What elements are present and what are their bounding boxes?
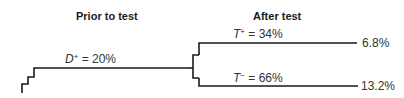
header-prior-to-test: Prior to test xyxy=(76,11,138,22)
header-after-test: After test xyxy=(253,11,301,22)
outcome-positive: 6.8% xyxy=(362,37,389,49)
prior-staircase xyxy=(22,68,187,93)
prior-probability-label: D+ = 20% xyxy=(65,53,116,65)
split-vertical xyxy=(193,55,199,78)
prior-variable: D xyxy=(65,52,74,66)
branch-positive-line xyxy=(199,43,357,55)
test-positive-value: = 34% xyxy=(245,27,283,41)
test-negative-label: T− = 66% xyxy=(233,72,283,84)
test-negative-value: = 66% xyxy=(245,71,283,85)
outcome-negative: 13.2% xyxy=(361,80,395,92)
test-positive-label: T+ = 34% xyxy=(233,28,283,40)
tree-lines xyxy=(0,0,404,98)
prior-value: = 20% xyxy=(78,52,116,66)
